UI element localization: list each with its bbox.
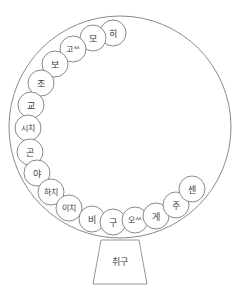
node-label: 야 <box>33 169 41 179</box>
node-label: 구 <box>109 218 117 228</box>
node-label: 게 <box>152 212 160 222</box>
node-label: 주 <box>172 201 180 211</box>
node-label: 센 <box>188 185 196 195</box>
node-label: 곤 <box>26 148 34 158</box>
node-label: 조 <box>37 79 45 89</box>
node-label: 오ᄊ <box>128 216 142 225</box>
node-label: 고ᄊ <box>66 45 80 54</box>
circular-diagram-svg: 취구히모고ᄊ보조교시치곤야하치이치비구오ᄊ게주센 <box>0 0 238 305</box>
node-label: 보 <box>51 60 59 70</box>
node-label: 하치 <box>44 187 58 197</box>
node-label: 교 <box>27 101 35 111</box>
mouthpiece-base-group: 취구 <box>93 240 147 284</box>
node-10[interactable]: 이치 <box>56 195 82 221</box>
diagram-canvas: 취구히모고ᄊ보조교시치곤야하치이치비구오ᄊ게주센 <box>0 0 238 305</box>
node-6[interactable]: 시치 <box>15 115 41 141</box>
node-label: 시치 <box>21 124 35 133</box>
node-label: 비 <box>88 215 96 225</box>
node-label: 이치 <box>62 203 76 213</box>
node-16[interactable]: 센 <box>179 176 205 202</box>
node-label: 모 <box>89 34 97 44</box>
mouthpiece-label: 취구 <box>112 257 128 267</box>
node-5[interactable]: 교 <box>18 92 44 118</box>
node-label: 히 <box>109 29 117 39</box>
main-circle <box>9 16 231 238</box>
